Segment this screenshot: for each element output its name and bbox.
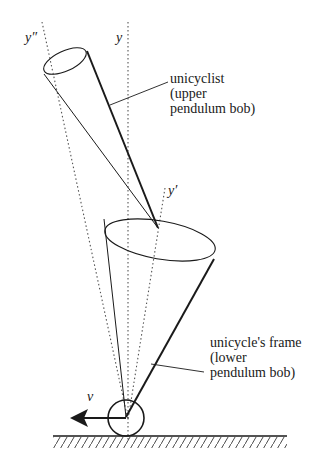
lower-pendulum-bob — [102, 212, 219, 417]
ground-hatching — [53, 437, 287, 448]
upper-callout-leader — [110, 82, 168, 105]
y-prime-axis-line — [128, 188, 165, 420]
lower-callout-line-3: pendulum bob) — [210, 365, 302, 380]
upper-cone-left-edge — [44, 74, 158, 228]
upper-cone-right-edge — [87, 51, 158, 228]
upper-cone-top-ellipse — [40, 42, 90, 80]
lower-callout-line-1: unicycle's frame — [210, 335, 302, 350]
upper-pendulum-bob — [40, 42, 158, 228]
velocity-label: v — [87, 389, 93, 404]
y-prime-axis-label: y′ — [168, 183, 177, 198]
upper-callout-line-2: (upper — [170, 86, 255, 101]
upper-callout-text: unicyclist (upper pendulum bob) — [170, 71, 255, 116]
y-double-prime-axis-label: y″ — [25, 30, 37, 45]
upper-callout-line-1: unicyclist — [170, 71, 255, 86]
upper-callout-line-3: pendulum bob) — [170, 101, 255, 116]
lower-callout-line-2: (lower — [210, 350, 302, 365]
y-double-prime-axis-line — [42, 22, 128, 420]
y-axis-label: y — [116, 30, 122, 45]
lower-callout-leader — [151, 364, 204, 372]
lower-cone-right-edge — [126, 259, 214, 417]
unicycle-pendulum-diagram — [0, 0, 318, 464]
lower-callout-text: unicycle's frame (lower pendulum bob) — [210, 335, 302, 380]
